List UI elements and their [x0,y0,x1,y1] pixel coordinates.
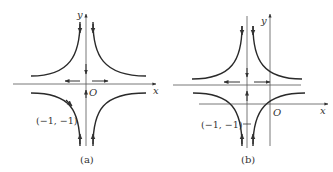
origin-label-b: O [273,107,281,118]
trajectory-lower-right-b [253,93,305,146]
point-label-b: (−1, −1) [201,119,242,130]
y-axis-label-a: y [76,9,83,20]
caption-a: (a) [80,154,94,165]
phase-portrait-figure: y x O (−1, −1) (a) y x O (−1 [0,0,333,172]
caption-b: (b) [241,154,255,165]
trajectory-lower-right-a [93,93,146,146]
panel-a: y x O (−1, −1) (a) [13,9,159,165]
x-axis-label-a: x [153,85,159,96]
origin-label-a: O [89,87,97,98]
point-label-a: (−1, −1) [36,115,77,126]
trajectory-upper-left-a [31,22,80,76]
trajectory-upper-right-a [93,22,146,76]
x-axis-label-b: x [320,105,326,116]
panel-b: y x O (−1, −1) (b) [173,14,328,165]
trajectory-upper-left-b [192,26,242,79]
trajectory-upper-right-b [253,26,302,79]
y-axis-label-b: y [260,15,267,26]
